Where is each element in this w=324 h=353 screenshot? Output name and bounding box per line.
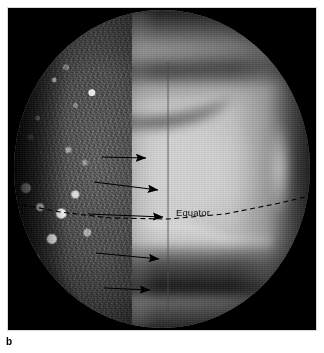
annotation-overlay: Equator [8,8,316,330]
arrow-4 [96,253,159,259]
figure-image-frame: Equator [8,8,316,330]
arrow-2 [94,182,158,190]
arrow-5 [104,288,150,290]
annotation-svg [8,8,316,330]
panel-label-b: b [6,336,12,347]
figure-page: Equator b [0,0,324,353]
pointer-arrows [88,157,163,290]
arrow-1 [102,157,146,158]
equator-label: Equator [176,207,210,218]
equator-dashed-line [14,197,305,219]
